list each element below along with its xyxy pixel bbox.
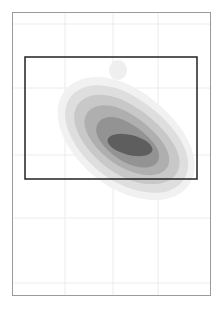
secondary-density-mode xyxy=(109,60,127,80)
density-chart xyxy=(0,0,224,317)
